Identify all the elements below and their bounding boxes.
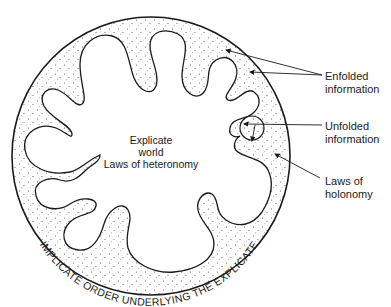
- holonomy-label-line1: Laws of: [325, 175, 364, 187]
- implicate-order-diagram: Explicate world Laws of heteronomy IMPLI…: [0, 0, 391, 307]
- enfolded-label-line2: information: [325, 83, 379, 95]
- enfolded-label-line1: Enfolded: [325, 70, 368, 82]
- unfolded-label-line1: Unfolded: [325, 120, 369, 132]
- unfolded-label-line2: information: [325, 133, 379, 145]
- center-label-line2: world: [137, 146, 163, 158]
- center-label-line1: Explicate: [130, 134, 173, 146]
- center-label-line3: Laws of heteronomy: [104, 158, 199, 170]
- holonomy-label-line2: holonomy: [325, 188, 373, 200]
